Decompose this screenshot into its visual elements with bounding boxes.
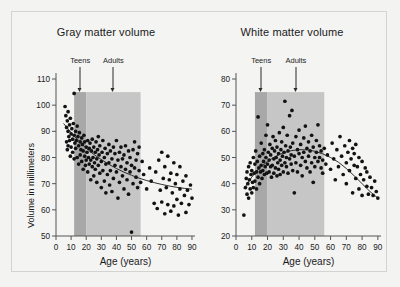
svg-text:60: 60 bbox=[326, 243, 336, 252]
svg-text:80: 80 bbox=[172, 243, 182, 252]
figure-root: Gray matter volume Teens Adults Volume i… bbox=[0, 0, 400, 287]
svg-text:40: 40 bbox=[112, 243, 122, 252]
svg-text:90: 90 bbox=[373, 243, 383, 252]
svg-text:90: 90 bbox=[41, 127, 51, 136]
panel-white-matter: White matter volume Teens Adults Age (ye… bbox=[198, 12, 386, 273]
svg-text:60: 60 bbox=[142, 243, 152, 252]
svg-text:70: 70 bbox=[157, 243, 167, 252]
svg-text:40: 40 bbox=[294, 243, 304, 252]
svg-text:20: 20 bbox=[221, 232, 231, 241]
svg-text:0: 0 bbox=[234, 243, 239, 252]
svg-text:30: 30 bbox=[279, 243, 289, 252]
svg-text:50: 50 bbox=[127, 243, 137, 252]
svg-text:50: 50 bbox=[41, 232, 51, 241]
svg-text:40: 40 bbox=[221, 180, 231, 189]
gray-matter-plot: 50607080901001100102030405060708090 bbox=[12, 12, 200, 273]
svg-text:10: 10 bbox=[247, 243, 257, 252]
svg-text:70: 70 bbox=[41, 180, 51, 189]
svg-text:80: 80 bbox=[358, 243, 368, 252]
svg-text:100: 100 bbox=[36, 101, 50, 110]
svg-text:0: 0 bbox=[54, 243, 59, 252]
svg-text:80: 80 bbox=[41, 154, 51, 163]
svg-text:110: 110 bbox=[37, 75, 50, 84]
svg-text:30: 30 bbox=[221, 206, 231, 215]
svg-text:20: 20 bbox=[263, 243, 273, 252]
svg-text:70: 70 bbox=[221, 101, 231, 110]
svg-text:90: 90 bbox=[187, 243, 197, 252]
svg-text:70: 70 bbox=[342, 243, 352, 252]
white-matter-plot: 203040506070800102030405060708090 bbox=[198, 12, 386, 273]
panel-gray-matter: Gray matter volume Teens Adults Volume i… bbox=[12, 12, 200, 273]
svg-text:20: 20 bbox=[82, 243, 92, 252]
svg-text:80: 80 bbox=[221, 75, 231, 84]
svg-text:50: 50 bbox=[221, 154, 231, 163]
svg-text:10: 10 bbox=[67, 243, 77, 252]
figure-frame: Gray matter volume Teens Adults Volume i… bbox=[11, 11, 387, 272]
svg-text:60: 60 bbox=[41, 206, 51, 215]
svg-text:30: 30 bbox=[97, 243, 107, 252]
svg-text:50: 50 bbox=[310, 243, 320, 252]
svg-text:60: 60 bbox=[221, 127, 231, 136]
